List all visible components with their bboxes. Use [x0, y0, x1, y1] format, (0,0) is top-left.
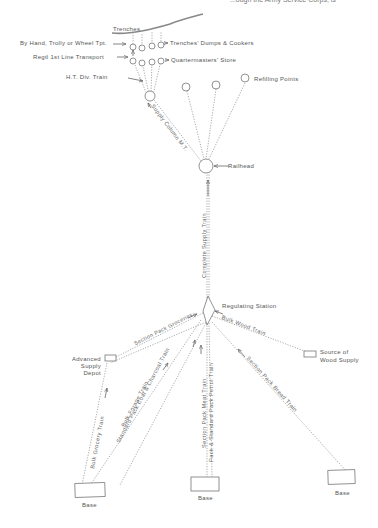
diagram-lines: [0, 0, 378, 528]
pack-petrol-train-label: Pack & Standard Pack Petrol Train: [208, 363, 214, 462]
by-hand-label: By Hand, Trolly or Wheel Tpt.: [20, 40, 107, 46]
supply-chain-diagram: ...ough the Army Service Corps, is Trenc…: [0, 0, 378, 528]
source-of-wood-label-2: Wood Supply: [320, 357, 359, 363]
source-of-wood-label-1: Source of: [320, 349, 348, 355]
regulating-station-shape: [203, 296, 215, 325]
regtl-transport-label: Regtl 1st Line Transport: [33, 54, 104, 60]
base-center-label: Base: [198, 495, 213, 501]
base-right-label: Base: [335, 490, 350, 496]
complete-supply-train-label: Complete Supply Train: [201, 213, 207, 278]
ht-div-train-label: H.T. Div. Train: [66, 74, 108, 80]
regulating-station-label: Regulating Station: [222, 303, 276, 309]
railhead-label: Railhead: [228, 163, 254, 169]
page-header-fragment: ...ough the Army Service Corps, is: [230, 0, 336, 3]
advanced-supply-depot-label: Advanced Supply Depot: [63, 356, 101, 377]
refilling-points-label: Refilling Points: [254, 76, 299, 82]
trenches-dumps-label: Trenches' Dumps & Cookers: [170, 40, 254, 46]
quartermasters-store-label: Quartermasters' Store: [171, 57, 236, 63]
base-left-label: Base: [82, 502, 97, 508]
trenches-label: Trenches: [113, 26, 140, 32]
section-pack-meat-train-label: Section Pack Meat Train: [201, 378, 207, 448]
